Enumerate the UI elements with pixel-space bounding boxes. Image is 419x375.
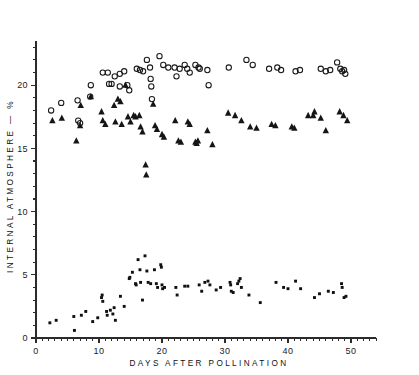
data-point xyxy=(247,123,253,129)
data-point xyxy=(229,281,232,284)
data-point xyxy=(149,282,152,285)
data-point xyxy=(106,314,109,317)
x-axis-title: DAYS AFTER POLLINATION xyxy=(130,359,289,368)
data-point xyxy=(48,108,53,113)
data-point xyxy=(200,290,203,293)
x-tick-label: 20 xyxy=(157,346,168,356)
data-point xyxy=(332,291,335,294)
data-point xyxy=(128,276,131,279)
data-point xyxy=(101,300,104,303)
y-tick-label: 0 xyxy=(23,333,28,343)
data-point xyxy=(299,287,302,290)
data-point xyxy=(98,108,104,114)
data-point xyxy=(112,118,118,124)
data-point xyxy=(109,309,112,312)
data-point xyxy=(282,286,285,289)
data-point xyxy=(160,266,163,269)
data-point xyxy=(147,65,152,70)
data-point xyxy=(172,117,178,123)
data-point xyxy=(336,108,342,114)
data-point xyxy=(215,289,218,292)
data-point xyxy=(88,83,93,88)
data-point xyxy=(253,124,259,130)
data-point xyxy=(96,316,99,319)
data-point xyxy=(84,310,87,313)
data-point xyxy=(204,127,210,133)
data-point xyxy=(183,285,186,288)
data-point xyxy=(140,69,145,74)
y-tick-label: 15 xyxy=(17,144,28,154)
data-point xyxy=(125,113,131,119)
y-tick-label: 20 xyxy=(17,80,28,90)
data-point xyxy=(318,114,324,120)
data-point xyxy=(206,83,211,88)
data-point xyxy=(161,62,166,67)
data-point xyxy=(176,294,179,297)
data-point xyxy=(122,69,127,74)
data-point xyxy=(149,84,154,89)
data-point xyxy=(219,286,222,289)
data-point xyxy=(137,258,140,261)
data-point xyxy=(238,117,244,123)
data-point xyxy=(49,117,55,123)
data-point xyxy=(113,306,116,309)
data-point xyxy=(72,315,75,318)
x-tick-label: 30 xyxy=(220,346,231,356)
data-point xyxy=(203,281,206,284)
scatter-chart-figure: 05101520 01020304050 DAYS AFTER POLLINAT… xyxy=(0,0,419,375)
plot-canvas: 05101520 01020304050 DAYS AFTER POLLINAT… xyxy=(0,0,419,375)
data-point xyxy=(139,281,142,284)
data-point xyxy=(156,286,159,289)
data-point xyxy=(208,283,211,286)
data-point xyxy=(118,121,124,127)
data-point xyxy=(80,314,83,317)
series-nitrogen xyxy=(48,53,348,125)
data-point xyxy=(247,294,250,297)
data-point xyxy=(134,66,139,71)
series-carbon-dioxide xyxy=(48,254,347,331)
x-tick-label: 50 xyxy=(346,346,357,356)
data-point xyxy=(266,66,271,71)
data-point xyxy=(174,286,177,289)
data-point xyxy=(207,280,210,283)
data-point xyxy=(114,319,117,322)
data-point xyxy=(341,286,344,289)
data-point xyxy=(159,263,162,266)
data-point xyxy=(294,280,297,283)
data-points-layer xyxy=(48,53,350,331)
data-point xyxy=(182,62,187,67)
data-point xyxy=(105,70,110,75)
data-point xyxy=(197,66,202,71)
data-point xyxy=(131,271,134,274)
data-point xyxy=(345,295,348,298)
data-point xyxy=(318,66,323,71)
data-point xyxy=(275,65,280,70)
data-point xyxy=(144,57,149,62)
data-point xyxy=(198,283,201,286)
data-point xyxy=(127,88,132,93)
data-point xyxy=(209,141,215,147)
data-point xyxy=(205,67,210,72)
data-point xyxy=(229,283,232,286)
y-tick-label: 5 xyxy=(23,270,28,280)
data-point xyxy=(186,285,189,288)
data-point xyxy=(232,291,235,294)
y-axis-title: INTERNAL ATMOSPHERE — % xyxy=(6,99,15,273)
data-point xyxy=(100,70,105,75)
data-point xyxy=(153,268,156,271)
data-point xyxy=(111,102,117,108)
data-point xyxy=(278,67,283,72)
data-point xyxy=(147,281,150,284)
data-point xyxy=(141,299,144,302)
y-tick-label: 10 xyxy=(17,207,28,217)
data-point xyxy=(327,290,330,293)
data-point xyxy=(244,57,249,62)
data-point xyxy=(75,98,80,103)
data-point xyxy=(259,301,262,304)
data-point xyxy=(149,96,154,101)
data-point xyxy=(59,114,65,120)
data-point xyxy=(323,127,329,133)
data-point xyxy=(48,321,51,324)
data-point xyxy=(100,296,103,299)
data-point xyxy=(177,66,182,71)
